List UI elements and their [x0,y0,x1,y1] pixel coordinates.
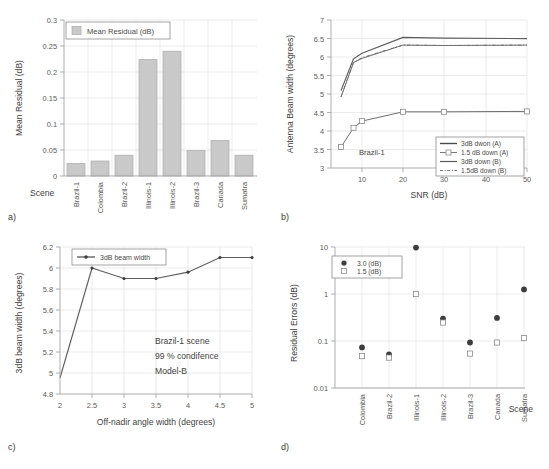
ytick-label: 0 [53,172,57,181]
xtick-label: Colombia [96,181,105,213]
ytick-label: 0.15 [43,94,57,103]
panel-c-legend: 3dB beam width [72,249,166,265]
panel-b-tag: b) [281,212,289,222]
point-canada-1p5 [494,340,499,345]
xtick-label: Illinois-1 [144,182,153,209]
panel-d-chart: 10 1 0.1 0.01 Colombia Brazil-2 Illinois… [275,235,549,469]
ytick-label: 5.2 [43,348,53,357]
panel-d-xtick-labels: Colombia Brazil-2 Illinois-1 Illinois-2 … [358,393,529,425]
ytick-label: 0.05 [43,146,57,155]
xtick-label: 2 [58,401,62,410]
bar-brazil-2 [115,155,133,176]
point-sumatra-3p0 [521,287,527,293]
legend-label: 1.5dB down (B) [461,167,506,175]
ytick-label: 1 [324,290,328,299]
point-brazil-2-1p5 [386,355,391,360]
panel-a-ytick-labels: 0.3 0.25 0.2 0.15 0.1 0.05 0 [43,16,57,181]
ytick-label: 0.2 [47,68,57,77]
legend-label: 1.5 dB down (A) [461,149,508,157]
panel-b-annotation: Brazil-1 [359,148,385,157]
legend-label: 3dB dwon (A) [461,140,501,148]
ytick-label: 0.3 [47,16,57,25]
panel-b-chart: 7 6.5 6 5.5 5 4.5 4 3.5 3 10 20 30 40 50… [275,0,549,234]
panel-b-legend: 3dB dwon (A) 1.5 dB down (A) 3dB down (B… [436,137,524,176]
ytick-label: 4.5 [314,109,324,118]
ytick-label: 5 [49,369,53,378]
panel-b-ylabel: Antenna Beam width (degrees) [285,35,295,154]
panel-b: 7 6.5 6 5.5 5 4.5 4 3.5 3 10 20 30 40 50… [275,0,549,234]
bar-illinois-2 [163,51,181,176]
panel-d: 10 1 0.1 0.01 Colombia Brazil-2 Illinois… [275,235,549,469]
xtick-label: Illinois-2 [439,394,448,421]
xtick-label: 20 [399,175,407,184]
panel-a-ylabel: Mean Residual (dB) [14,60,24,136]
panel-a-tag: a) [8,212,16,222]
ytick-label: 4.8 [43,390,53,399]
series-1p5db-down-b [341,45,527,97]
xtick-label: Colombia [358,393,367,425]
ytick-label: 3.5 [314,146,324,155]
point-colombia-1p5 [359,354,364,359]
panel-c-xtick-labels: 2 2.5 3 3.5 4 4.5 5 [58,401,254,410]
panel-a-legend: Mean Residual (dB) [66,22,170,39]
point-canada-3p0 [494,315,500,321]
ytick-label: 6 [49,264,53,273]
figure-container: 0.3 0.25 0.2 0.15 0.1 0.05 0 Brazil-1 Co… [0,0,549,469]
legend-label: 3dB beam width [100,254,150,261]
panel-c-ylabel: 3dB beam width (degrees) [14,272,24,373]
panel-c-ytick-labels: 6.2 6 5.8 5.6 5.4 5.2 5 4.8 [43,243,53,399]
point-illinois-1-3p0 [413,245,419,251]
legend-label: 3.0 (dB) [357,260,381,268]
xtick-label: 3.5 [151,401,161,410]
panel-a-chart: 0.3 0.25 0.2 0.15 0.1 0.05 0 Brazil-1 Co… [0,0,274,234]
point-colombia-3p0 [359,345,365,351]
panel-c-tag: c) [8,442,16,452]
panel-d-xlabel: Scene [509,404,534,414]
xtick-label: Brazil-2 [385,394,394,419]
xtick-label: 4.5 [215,401,225,410]
series-3db-down-b [341,45,527,97]
xtick-label: Illinois-1 [412,394,421,421]
panel-d-ylabel: Residual Errors (dB) [289,284,299,362]
point-brazil-3-3p0 [467,340,473,346]
panel-a-xtick-labels: Brazil-1 Colombia Brazil-2 Illinois-1 Il… [72,181,249,213]
panel-b-ytick-labels: 7 6.5 6 5.5 5 4.5 4 3.5 3 [314,16,324,173]
ytick-label: 5 [320,90,324,99]
ytick-label: 5.6 [43,306,53,315]
panel-c-annotation: 99 % condifence [155,351,219,361]
legend-label: Mean Residual (dB) [87,27,155,36]
ytick-label: 0.1 [47,120,57,129]
bar-illinois-1 [139,60,157,177]
bar-colombia [91,161,109,176]
bar-brazil-3 [187,151,205,177]
legend-label: 3dB down (B) [461,158,501,166]
ytick-label: 5.4 [43,327,53,336]
xtick-label: Illinois-2 [168,182,177,209]
bar-canada [211,141,229,176]
ytick-label: 10 [320,243,328,252]
panel-c-xlabel: Off-nadir angle width (degrees) [97,417,215,427]
legend-label: 1.5 (dB) [357,268,381,276]
panel-c-annotation: Brazil-1 scene [155,336,210,346]
ytick-label: 4 [320,127,324,136]
panel-d-legend: 3.0 (dB) 1.5 (dB) [332,256,402,278]
ytick-label: 6 [320,53,324,62]
xtick-label: Canada [216,181,225,208]
xtick-label: Brazil-3 [192,182,201,207]
ytick-label: 5.5 [314,72,324,81]
panel-c-chart: 6.2 6 5.8 5.6 5.4 5.2 5 4.8 2 2.5 3 3.5 … [0,235,274,469]
panel-c-annotations: Brazil-1 scene 99 % condifence Model-B [155,336,219,376]
xtick-label: Sumatra [240,181,249,210]
panel-c-axes [56,247,252,398]
panel-c: 6.2 6 5.8 5.6 5.4 5.2 5 4.8 2 2.5 3 3.5 … [0,235,274,469]
xtick-label: Canada [493,393,502,420]
xtick-label: 10 [358,175,366,184]
ytick-label: 5.8 [43,285,53,294]
panel-b-xlabel: SNR (dB) [411,190,448,200]
xtick-label: 5 [250,401,254,410]
panel-c-annotation: Model-B [155,366,187,376]
xtick-label: Brazil-2 [120,182,129,207]
xtick-label: 3 [122,401,126,410]
xtick-label: Brazil-3 [466,394,475,419]
xtick-label: Brazil-1 [72,182,81,207]
